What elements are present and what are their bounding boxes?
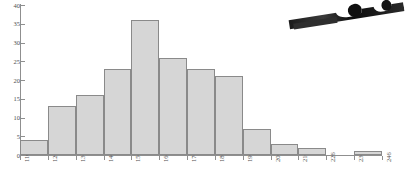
histogram-bar xyxy=(131,20,159,155)
plot-area xyxy=(20,5,382,155)
x-axis-tick xyxy=(382,156,383,160)
x-axis-tick xyxy=(298,156,299,160)
histogram-bar xyxy=(298,148,326,156)
x-axis-tick xyxy=(48,156,49,160)
x-axis-tick xyxy=(76,156,77,160)
x-axis-tick xyxy=(354,156,355,160)
x-axis-tick xyxy=(215,156,216,160)
x-axis-tick-label: 246 xyxy=(385,152,392,162)
x-axis-line xyxy=(20,155,382,156)
histogram-bar xyxy=(76,95,104,155)
x-axis-tick xyxy=(243,156,244,160)
histogram-bar xyxy=(159,58,187,156)
x-axis-tick xyxy=(20,156,21,160)
x-axis-tick xyxy=(271,156,272,160)
histogram-bar xyxy=(48,106,76,155)
histogram-bar xyxy=(104,69,132,155)
histogram-bar xyxy=(243,129,271,155)
histogram-bar xyxy=(20,140,48,155)
histogram-chart: 0510152025303540 11612613614615616617618… xyxy=(0,0,406,182)
histogram-bar xyxy=(271,144,299,155)
x-axis-tick xyxy=(326,156,327,160)
histogram-bar xyxy=(215,76,243,155)
x-axis-tick xyxy=(187,156,188,160)
histogram-bar xyxy=(187,69,215,155)
x-axis-tick xyxy=(131,156,132,160)
x-axis-tick xyxy=(159,156,160,160)
x-axis-tick xyxy=(104,156,105,160)
histogram-bar xyxy=(354,151,382,155)
